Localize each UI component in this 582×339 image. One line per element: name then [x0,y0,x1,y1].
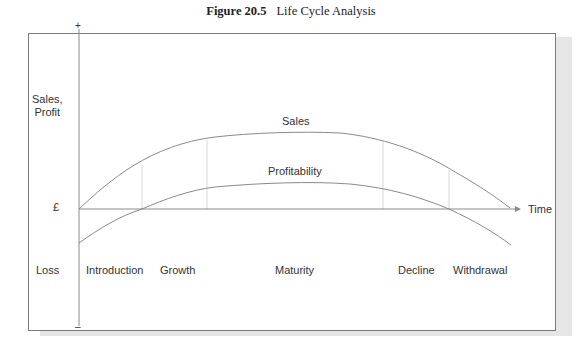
currency-label: £ [53,201,59,213]
time-axis-label: Time [528,203,552,215]
y-axis-label-line1: Sales, [32,93,63,106]
stage-maturity: Maturity [275,264,314,276]
profitability-curve-label: Profitability [268,165,322,177]
loss-label: Loss [36,264,59,276]
x-axis-arrow-icon [515,206,521,212]
stage-withdrawal: Withdrawal [453,264,507,276]
stage-growth: Growth [160,264,195,276]
y-axis-label-line2: Profit [32,106,63,119]
y-plus-sign: + [75,20,81,31]
sales-curve-label: Sales [282,115,310,127]
stage-decline: Decline [398,264,435,276]
y-minus-sign: – [75,321,81,332]
profitability-curve [79,183,511,245]
y-axis-label: Sales, Profit [32,93,63,119]
stage-introduction: Introduction [86,264,143,276]
